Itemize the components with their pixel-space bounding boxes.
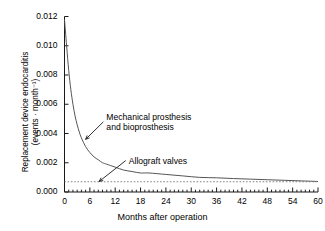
chart-figure: Replacement device endocarditis (events …	[0, 0, 325, 231]
annotation-line1: Allograft valves	[129, 156, 187, 167]
data-series	[65, 19, 319, 181]
axes	[65, 17, 319, 193]
annotation-line1: Mechanical prosthesis	[106, 112, 191, 123]
annotation-arrow	[99, 161, 126, 182]
annotation-label-mechanical: Mechanical prosthesisand bioprosthesis	[106, 112, 191, 133]
series-line	[65, 19, 319, 181]
annotation-line2: and bioprosthesis	[106, 122, 191, 133]
annotation-label-allograft: Allograft valves	[129, 156, 187, 167]
annotation-arrow	[86, 122, 104, 140]
